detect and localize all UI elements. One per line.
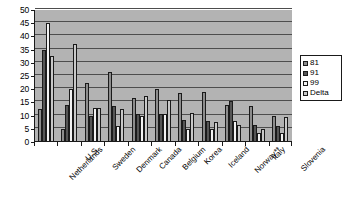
bars-layer — [34, 10, 292, 142]
legend-label: 91 — [310, 69, 319, 77]
bar — [144, 96, 148, 142]
bar — [214, 122, 218, 142]
bar — [120, 109, 124, 142]
y-tick-label: 15 — [20, 98, 29, 107]
bar — [97, 108, 101, 142]
bar-group — [81, 10, 104, 142]
bar-group — [245, 10, 268, 142]
y-axis: 05101520253035404550 — [0, 0, 34, 143]
x-axis-label: Iceland — [227, 145, 252, 170]
bar-group — [269, 10, 292, 142]
y-tick-label: 20 — [20, 85, 29, 94]
legend-item: 81 — [303, 58, 339, 68]
y-tick-label: 10 — [20, 112, 29, 121]
legend-swatch-icon — [303, 71, 308, 76]
bar-group — [151, 10, 174, 142]
legend-item: Delta — [303, 88, 339, 98]
bar — [73, 44, 77, 142]
bar-group — [104, 10, 127, 142]
legend-label: 81 — [310, 59, 319, 67]
y-tick-label: 30 — [20, 59, 29, 68]
bar-group — [34, 10, 57, 142]
x-axis-labels: NetherlandsU.S.SwedenDenmarkCanadaBelgiu… — [0, 142, 348, 206]
bar — [50, 56, 54, 142]
y-tick-label: 5 — [24, 125, 29, 134]
bar-group — [175, 10, 198, 142]
bar — [167, 100, 171, 142]
x-axis-label: Denmark — [135, 145, 164, 174]
y-tick-label: 35 — [20, 46, 29, 55]
x-axis-label: Korea — [202, 145, 223, 166]
bar — [237, 125, 241, 142]
x-axis-label: Slovenia — [299, 145, 327, 173]
bar-group — [57, 10, 80, 142]
chart-legend: 819199Delta — [300, 55, 342, 101]
legend-label: Delta — [310, 89, 329, 97]
y-tick-label: 50 — [20, 6, 29, 15]
y-tick-label: 25 — [20, 72, 29, 81]
y-tick-label: 40 — [20, 32, 29, 41]
bar-chart: 05101520253035404550 NetherlandsU.S.Swed… — [0, 0, 348, 206]
legend-item: 99 — [303, 78, 339, 88]
bar — [190, 113, 194, 142]
legend-swatch-icon — [303, 61, 308, 66]
x-axis-label: Sweden — [110, 145, 137, 172]
bar-group — [128, 10, 151, 142]
bar-group — [198, 10, 221, 142]
bar — [261, 129, 265, 142]
bar — [284, 117, 288, 142]
gridline-50 — [35, 8, 292, 9]
y-tick-label: 45 — [20, 19, 29, 28]
legend-swatch-icon — [303, 91, 308, 96]
legend-swatch-icon — [303, 81, 308, 86]
legend-label: 99 — [310, 79, 319, 87]
legend-item: 91 — [303, 68, 339, 78]
bar-group — [222, 10, 245, 142]
